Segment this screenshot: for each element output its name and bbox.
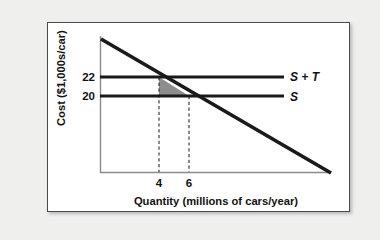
y-axis-title: Cost ($1,000s/car) — [55, 30, 67, 126]
legend-label-supply: S — [290, 90, 298, 104]
economics-supply-demand-chart: 22 20 4 6 Cost ($1,000s/car) Quantity (m… — [48, 23, 349, 211]
x-tick-label-6: 6 — [186, 177, 192, 189]
demand-curve — [101, 39, 331, 173]
x-tick-label-4: 4 — [156, 177, 163, 189]
figure-panel: 22 20 4 6 Cost ($1,000s/car) Quantity (m… — [47, 22, 350, 212]
x-axis-title: Quantity (millions of cars/year) — [134, 195, 298, 207]
y-tick-label-22: 22 — [82, 71, 95, 83]
legend-label-supply-plus-tax: S + T — [290, 70, 321, 84]
y-tick-label-20: 20 — [82, 90, 95, 102]
